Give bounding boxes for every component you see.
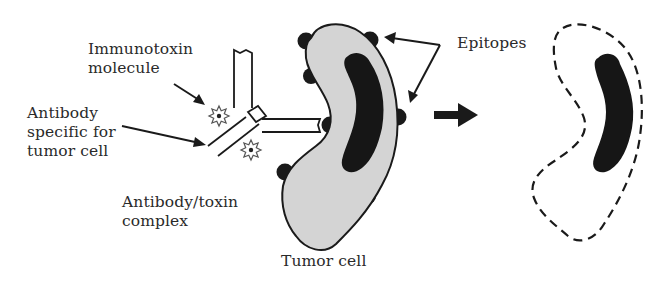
label-immunotoxin: Immunotoxin molecule (88, 40, 193, 78)
label-antibody-line1: Antibody (27, 104, 116, 123)
label-immunotoxin-line1: Immunotoxin (88, 40, 193, 59)
label-complex: Antibody/toxin complex (122, 193, 238, 231)
diagram-canvas: Immunotoxin molecule Antibody specific f… (0, 0, 657, 291)
label-tumor-cell: Tumor cell (281, 252, 366, 271)
label-complex-line1: Antibody/toxin (122, 193, 238, 212)
label-antibody: Antibody specific for tumor cell (27, 104, 116, 161)
dead-cell-nucleus (593, 54, 633, 173)
toxin-star-upper (209, 106, 229, 126)
label-antibody-line2: specific for (27, 123, 116, 142)
label-antibody-line3: tumor cell (27, 142, 116, 161)
tumor-cell-body (282, 24, 397, 250)
label-complex-line2: complex (122, 212, 238, 231)
tumor-cell (277, 24, 407, 250)
label-immunotoxin-line2: molecule (88, 59, 193, 78)
antibody (208, 50, 320, 156)
label-epitopes: Epitopes (457, 34, 527, 53)
toxin-star-lower (241, 140, 261, 160)
process-arrow (434, 103, 478, 127)
dead-cell (532, 24, 641, 240)
